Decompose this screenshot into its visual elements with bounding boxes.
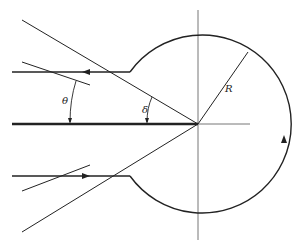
theta-angle-arc [70, 81, 76, 122]
arrow-up-icon [281, 135, 287, 143]
upper-theta-line [22, 62, 90, 85]
radius-line [198, 52, 248, 124]
lower-theta-line [22, 165, 90, 191]
radius-label: R [224, 83, 233, 94]
contour-diagram: θ δ R [0, 0, 293, 249]
lower-delta-line [22, 124, 198, 232]
theta-label: θ [62, 95, 68, 106]
delta-label: δ [142, 104, 148, 115]
arrow-left-icon [82, 69, 90, 75]
arrow-right-icon [82, 173, 90, 179]
